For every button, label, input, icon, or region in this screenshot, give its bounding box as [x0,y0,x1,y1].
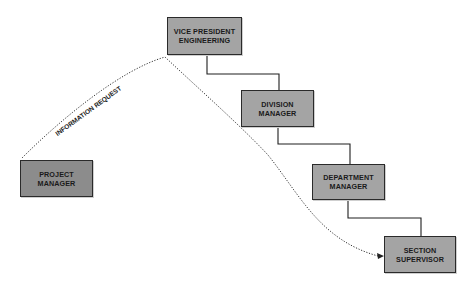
org-box-label: VICE PRESIDENT [174,27,235,36]
org-box-department: DEPARTMENTMANAGER [312,164,385,200]
org-box-vp: VICE PRESIDENTENGINEERING [167,17,242,55]
org-box-label: PROJECT [38,170,76,179]
org-box-label: SECTION [396,246,444,255]
org-box-label: MANAGER [259,109,297,118]
org-box-label: DEPARTMENT [323,173,373,182]
connector-vp-division [207,55,279,90]
information-request-path [22,57,378,256]
connector-department-section [348,200,421,236]
org-box-label: DIVISION [259,100,297,109]
org-box-label: SUPERVISOR [396,255,444,264]
connector-division-department [278,127,350,164]
org-box-project: PROJECTMANAGER [20,160,93,197]
org-box-division: DIVISIONMANAGER [241,90,314,127]
org-box-label: MANAGER [38,179,76,188]
org-box-label: ENGINEERING [174,36,235,45]
org-box-section: SECTIONSUPERVISOR [384,236,456,273]
arrowhead-icon [377,253,384,259]
org-box-label: MANAGER [323,182,373,191]
